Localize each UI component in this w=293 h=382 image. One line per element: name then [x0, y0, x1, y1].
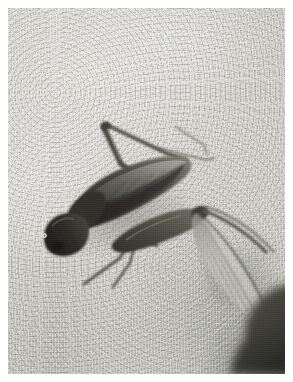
photograph — [8, 8, 285, 374]
photo-frame: Cricket resting on pale speckled fabric … — [0, 0, 293, 382]
head — [44, 213, 89, 256]
eye-pupil — [44, 235, 46, 237]
insect-artwork — [8, 8, 285, 374]
